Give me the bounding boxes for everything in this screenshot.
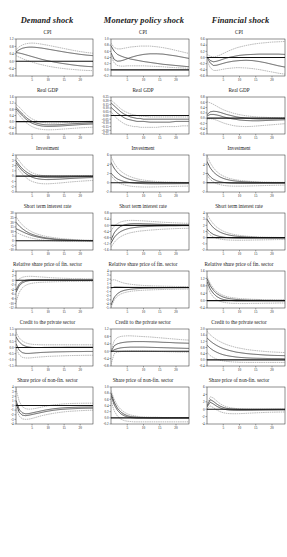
confidence-band-line [207, 61, 285, 75]
confidence-band-line [16, 56, 93, 71]
y-tick-label: 0.00 [103, 114, 109, 118]
y-tick-label: 0.6 [201, 101, 205, 105]
column-header-financial-shock: Financial shock [194, 16, 287, 25]
panel-plot-0-0: -0.8-0.40.00.40.81.25101520 [0, 37, 95, 85]
y-tick-label: -1 [106, 290, 109, 294]
y-tick-label: 0.5 [10, 340, 14, 344]
panel-cell-3-1: Short term interest rate -1.6-1.2-0.8-0.… [95, 201, 191, 259]
y-tick-label: 4 [107, 269, 109, 273]
panel-plot-2-2: -202465101520 [191, 153, 287, 201]
panel-label-6-1: Share price of non-fin. sector [95, 375, 191, 385]
irf-plot: -1.5-1.0-0.50.00.51.01.55101520 [0, 327, 95, 375]
column-headers: Demand shock Monetary policy shock Finan… [0, 12, 287, 28]
y-tick-label: 4 [12, 153, 14, 157]
x-tick-label: 10 [46, 368, 50, 372]
y-tick-label: 0.2 [201, 111, 205, 115]
y-tick-label: 0 [203, 181, 205, 185]
x-tick-label: 20 [78, 368, 82, 372]
x-tick-label: 10 [238, 310, 242, 314]
y-tick-label: -0.5 [8, 352, 14, 356]
x-tick-label: 15 [254, 252, 258, 256]
y-tick-label: -1 [11, 408, 14, 412]
x-tick-label: 10 [142, 368, 146, 372]
y-tick-label: -0.4 [199, 68, 205, 72]
y-tick-label: -0.4 [199, 127, 205, 131]
x-tick-label: 15 [254, 426, 258, 430]
y-tick-label: 1.2 [10, 101, 14, 105]
y-tick-label: 20 [10, 221, 14, 225]
panel-cell-4-0: Relative share price of fin. sector -12-… [0, 259, 95, 317]
panel-label-3-1: Short term interest rate [95, 201, 191, 211]
x-tick-label: 15 [158, 426, 162, 430]
panel-cell-3-2: Short term interest rate -2-101234510152… [191, 201, 287, 259]
y-tick-label: 0.05 [103, 110, 109, 114]
y-tick-label: 1.5 [10, 327, 14, 331]
y-tick-label: 30 [10, 211, 14, 215]
y-tick-label: 6 [203, 153, 205, 157]
panel-cell-5-0: Credit to the private sector -1.5-1.0-0.… [0, 317, 95, 375]
x-tick-label: 15 [254, 78, 258, 82]
y-tick-label: 0.4 [10, 52, 14, 56]
y-tick-label: -2 [11, 283, 14, 287]
y-tick-label: 2 [12, 164, 14, 168]
x-tick-label: 5 [222, 426, 224, 430]
x-tick-label: 5 [126, 426, 128, 430]
y-tick-label: 0.0 [201, 56, 205, 60]
y-tick-label: 1.0 [10, 333, 14, 337]
confidence-band-line [207, 156, 285, 182]
panel-cell-2-2: Investment -202465101520 [191, 143, 287, 201]
plot-frame [111, 271, 189, 308]
panel-label-4-2: Relative share price of fin. sector [191, 259, 287, 269]
y-tick-label: -0.4 [103, 230, 109, 234]
confidence-band-line [16, 332, 93, 344]
y-tick-label: 4 [203, 163, 205, 167]
plot-frame [16, 155, 93, 192]
x-tick-label: 10 [46, 78, 50, 82]
confidence-band-line [207, 331, 285, 352]
x-tick-label: 20 [78, 310, 82, 314]
y-tick-label: 0.8 [105, 211, 109, 215]
y-tick-label: -3 [106, 298, 109, 302]
y-tick-label: 5 [12, 234, 14, 238]
panel-grid: CPI -0.8-0.40.00.40.81.25101520 CPI -0.2… [0, 28, 287, 433]
panel-plot-6-2: -4-202465101520 [191, 385, 287, 433]
median-response-line [16, 222, 93, 240]
median-response-line [16, 344, 93, 354]
median-response-line [207, 282, 285, 301]
panel-plot-6-0: -4-3-2-1012345101520 [0, 385, 95, 433]
y-tick-label: 1 [203, 230, 205, 234]
y-tick-label: -0.4 [103, 357, 109, 361]
x-tick-label: 20 [78, 426, 82, 430]
irf-plot: -3-2-1012345101520 [0, 153, 95, 201]
panel-plot-1-0: -0.8-0.40.00.40.81.21.65101520 [0, 95, 95, 143]
y-tick-label: 0.0 [105, 224, 109, 228]
y-tick-label: 2.0 [201, 327, 205, 331]
y-tick-label: 0.0 [10, 120, 14, 124]
irf-plot: -4-3-2-1012345101520 [0, 385, 95, 433]
panel-plot-2-0: -3-2-1012345101520 [0, 153, 95, 201]
panel-plot-4-0: -12-10-8-6-4-20245101520 [0, 269, 95, 317]
y-tick-label: 0.8 [201, 284, 205, 288]
column-header-monetary-policy-shock: Monetary policy shock [94, 16, 194, 25]
y-tick-label: -1.2 [103, 242, 109, 246]
y-tick-label: -2 [202, 415, 205, 419]
confidence-band-line [111, 289, 189, 307]
y-tick-label: -6 [11, 292, 14, 296]
x-tick-label: 10 [46, 426, 50, 430]
y-tick-label: 1.2 [10, 37, 14, 41]
y-tick-label: 0 [12, 279, 14, 283]
median-response-line [16, 337, 93, 347]
panel-plot-5-1: -0.8-0.40.00.40.81.25101520 [95, 327, 191, 375]
y-tick-label: -1.6 [103, 248, 109, 252]
x-tick-label: 10 [238, 252, 242, 256]
y-tick-label: 3 [107, 273, 109, 277]
y-tick-label: 0.2 [201, 50, 205, 54]
y-tick-label: -5 [106, 306, 109, 310]
x-tick-label: 20 [270, 78, 274, 82]
panel-cell-2-1: Investment -202465101520 [95, 143, 191, 201]
y-tick-label: -4 [11, 288, 14, 292]
y-tick-label: 6 [107, 153, 109, 157]
panel-row-2: Investment -3-2-1012345101520 Investment… [0, 143, 287, 201]
x-tick-label: 10 [142, 310, 146, 314]
y-tick-label: 0.10 [103, 106, 109, 110]
